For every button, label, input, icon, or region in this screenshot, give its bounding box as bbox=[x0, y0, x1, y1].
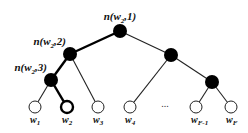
node-label-root: n(w2,1) bbox=[104, 10, 137, 25]
node-label-l2: n(w2,2) bbox=[33, 35, 66, 50]
leaf-label-w3: w3 bbox=[93, 114, 104, 127]
leaf-node-wF bbox=[225, 101, 237, 113]
tree-canvas: n(w2,1)n(w2,2)n(w2,3)w1w2w3w4wF-1wF... bbox=[0, 0, 248, 133]
internal-node-l3 bbox=[44, 73, 58, 87]
leaf-node-w2 bbox=[61, 101, 73, 113]
edge-r2-w4 bbox=[134, 55, 171, 102]
leaf-node-w1 bbox=[29, 101, 41, 113]
edge-root-l2 bbox=[70, 31, 120, 54]
tree-edges bbox=[38, 31, 227, 102]
leaf-node-w3 bbox=[92, 101, 104, 113]
internal-node-r2 bbox=[164, 48, 178, 62]
leaf-node-w4 bbox=[124, 101, 136, 113]
leaf-label-wF-1: wF-1 bbox=[191, 114, 208, 127]
internal-node-root bbox=[113, 24, 127, 38]
internal-node-l2 bbox=[63, 47, 77, 61]
edge-r2-r3 bbox=[171, 55, 212, 82]
leaf-label-w4: w4 bbox=[125, 114, 136, 127]
binary-tree-diagram: n(w2,1)n(w2,2)n(w2,3)w1w2w3w4wF-1wF... bbox=[0, 0, 248, 133]
edge-l2-w3 bbox=[70, 54, 95, 102]
leaf-label-w1: w1 bbox=[30, 114, 40, 127]
internal-node-r3 bbox=[205, 75, 219, 89]
node-label-l3: n(w2,3) bbox=[14, 61, 47, 76]
leaf-label-w2: w2 bbox=[62, 114, 73, 127]
leaf-label-wF: wF bbox=[226, 114, 238, 127]
ellipsis-label: ... bbox=[161, 98, 169, 109]
edge-root-r2 bbox=[120, 31, 171, 55]
leaf-node-wF-1 bbox=[190, 101, 202, 113]
